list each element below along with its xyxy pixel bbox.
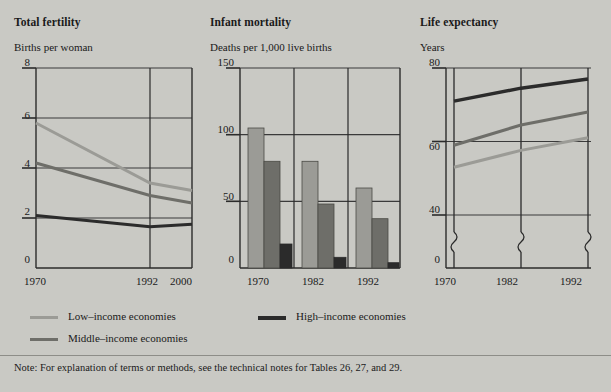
- bar-low-income-1992: [356, 188, 372, 268]
- legend-label-middle-income: Middle–income economies: [68, 332, 187, 344]
- bar-middle-income-1982: [318, 204, 334, 268]
- bar-low-income-1982: [302, 161, 318, 268]
- bar-middle-income-1970: [264, 161, 280, 268]
- axis-break-1982-icon: [518, 232, 524, 252]
- infant-mortality-plot: [210, 0, 410, 300]
- panel-life-expectancy: Life expectancy Years 80 60 40 0 1970 19…: [420, 0, 611, 300]
- legend: Low–income economies Middle–income econo…: [0, 300, 611, 352]
- note-divider: [0, 355, 611, 356]
- figure-note: Note: For explanation of terms or method…: [14, 362, 402, 373]
- panel-infant-mortality: Infant mortality Deaths per 1,000 live b…: [210, 0, 410, 300]
- panel-total-fertility: Total fertility Births per woman 8 6 4 2…: [14, 0, 204, 300]
- axis-break-1970-icon: [451, 232, 457, 252]
- legend-swatch-middle-income: [30, 338, 58, 341]
- line-high-income: [36, 216, 192, 227]
- life-expectancy-plot: [420, 0, 611, 300]
- legend-swatch-low-income: [30, 316, 58, 319]
- legend-label-low-income: Low–income economies: [68, 310, 176, 322]
- bar-middle-income-1992: [372, 219, 388, 268]
- bar-low-income-1970: [248, 128, 264, 268]
- legend-swatch-high-income: [258, 316, 286, 320]
- total-fertility-plot: [14, 0, 204, 300]
- figure-root: Total fertility Births per woman 8 6 4 2…: [0, 0, 611, 392]
- bar-high-income-1982: [334, 257, 346, 268]
- axis-break-1992-icon: [585, 232, 591, 252]
- line-low-income: [36, 123, 192, 191]
- legend-label-high-income: High–income economies: [296, 310, 406, 322]
- line-middle-income: [36, 163, 192, 203]
- bar-high-income-1992: [388, 263, 399, 268]
- bar-high-income-1970: [280, 244, 292, 268]
